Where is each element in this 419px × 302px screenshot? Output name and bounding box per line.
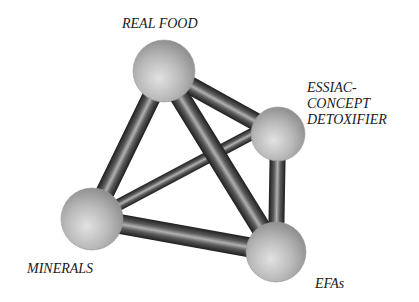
node-essiac-sphere [251, 107, 305, 161]
node-efas-sphere [246, 222, 306, 282]
label-essiac-line2: CONCEPT [307, 96, 387, 112]
label-essiac-line3: DETOXIFIER [307, 112, 387, 128]
label-real-food: REAL FOOD [122, 16, 198, 32]
node-minerals-sphere [61, 188, 123, 250]
node-real-food-sphere [133, 40, 195, 102]
label-essiac-line1: ESSIAC- [307, 80, 387, 96]
label-efas: EFAs [315, 276, 344, 292]
label-essiac-concept-detoxifier: ESSIAC- CONCEPT DETOXIFIER [307, 80, 387, 128]
label-minerals: MINERALS [27, 261, 93, 277]
nutrition-tetrahedron-diagram [0, 0, 419, 302]
